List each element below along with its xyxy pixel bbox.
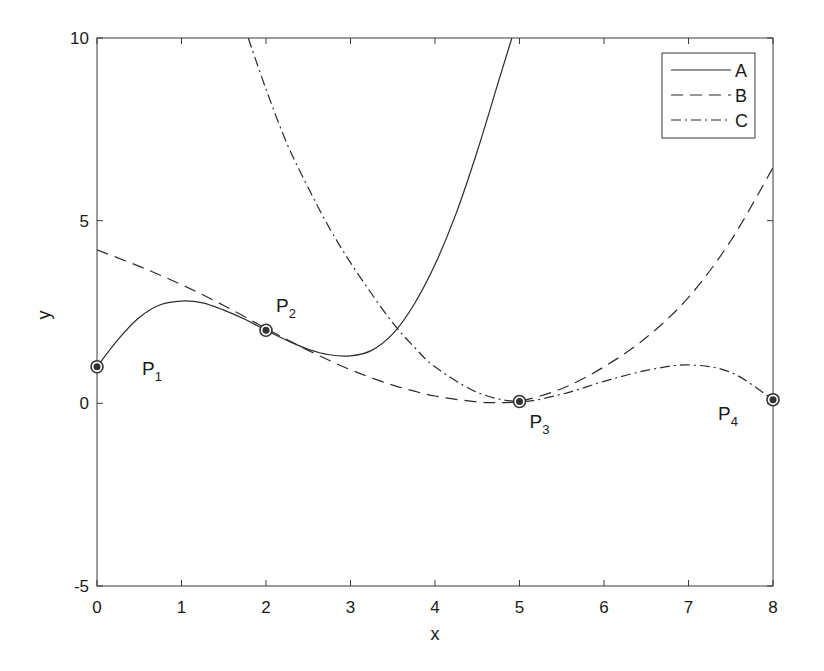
point-label-p1: P1 bbox=[142, 358, 162, 384]
point-label-p4: P4 bbox=[718, 403, 738, 429]
point-label-p2: P2 bbox=[276, 295, 296, 321]
y-tick-label: 5 bbox=[80, 212, 89, 231]
x-tick-label: 2 bbox=[261, 598, 270, 617]
y-tick-label: 0 bbox=[80, 394, 89, 413]
x-axis-label: x bbox=[431, 624, 440, 644]
x-tick-label: 7 bbox=[684, 598, 693, 617]
legend-label-a: A bbox=[735, 61, 747, 81]
x-tick-label: 1 bbox=[177, 598, 186, 617]
x-tick-label: 0 bbox=[92, 598, 101, 617]
line-chart: 012345678 -50510 x y P1P2P3P4 ABC bbox=[0, 0, 824, 671]
x-tick-label: 3 bbox=[346, 598, 355, 617]
legend-label-c: C bbox=[735, 111, 748, 131]
point-marker-dot bbox=[516, 398, 523, 405]
series-a-line bbox=[97, 38, 512, 367]
legend-label-b: B bbox=[735, 86, 747, 106]
y-tick-label: 10 bbox=[70, 29, 89, 48]
point-marker-dot bbox=[770, 396, 777, 403]
x-tick-label: 8 bbox=[768, 598, 777, 617]
y-tick-label: -5 bbox=[74, 577, 89, 596]
point-label-p3: P3 bbox=[530, 411, 550, 437]
point-marker-dot bbox=[94, 363, 101, 370]
x-tick-label: 5 bbox=[515, 598, 524, 617]
x-tick-label: 6 bbox=[599, 598, 608, 617]
legend: ABC bbox=[662, 53, 755, 138]
point-marker-dot bbox=[263, 327, 270, 334]
y-axis-label: y bbox=[34, 311, 54, 320]
x-tick-label: 4 bbox=[430, 598, 439, 617]
